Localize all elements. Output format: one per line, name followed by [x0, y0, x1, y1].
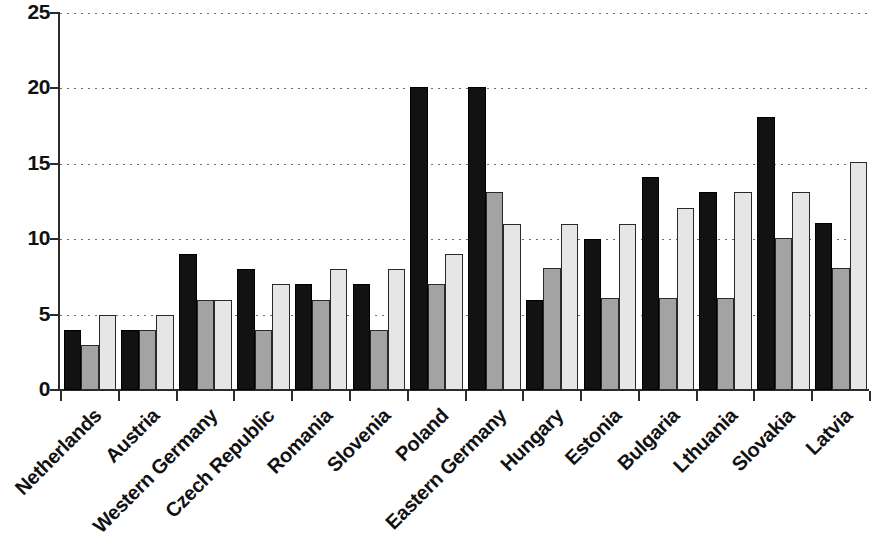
- bar: [775, 238, 793, 390]
- bar-group: [295, 13, 348, 390]
- bar-group: [179, 13, 232, 390]
- bar: [850, 162, 868, 390]
- x-tick-mark: [465, 391, 467, 401]
- x-tick-mark: [349, 391, 351, 401]
- bar: [81, 345, 99, 390]
- y-tick-label: 15: [6, 151, 50, 175]
- x-tick-mark: [233, 391, 235, 401]
- bar: [659, 298, 677, 390]
- bar-group: [757, 13, 810, 390]
- bar-group: [64, 13, 117, 390]
- bar: [486, 192, 504, 390]
- bar: [197, 300, 215, 390]
- bar: [757, 117, 775, 390]
- bar: [99, 315, 117, 390]
- x-tick-mark: [580, 391, 582, 401]
- bar: [584, 239, 602, 390]
- y-tick-mark: [50, 12, 60, 14]
- bar: [503, 224, 521, 390]
- x-tick-mark: [753, 391, 755, 401]
- bar: [642, 177, 660, 390]
- bar: [734, 192, 752, 390]
- bar-group: [121, 13, 174, 390]
- bar: [677, 208, 695, 390]
- y-tick-label: 20: [6, 75, 50, 99]
- bar: [156, 315, 174, 390]
- x-tick-mark: [869, 391, 871, 401]
- bar: [468, 87, 486, 390]
- bar-group: [526, 13, 579, 390]
- x-tick-mark: [60, 391, 62, 401]
- bar: [255, 330, 273, 390]
- bar: [312, 300, 330, 390]
- bar: [370, 330, 388, 390]
- y-tick-label: 25: [6, 0, 50, 24]
- bar: [295, 284, 313, 390]
- bar-chart: 0510152025 NetherlandsAustriaWestern Ger…: [0, 0, 879, 538]
- bar: [561, 224, 579, 390]
- x-tick-mark: [176, 391, 178, 401]
- bar: [139, 330, 157, 390]
- y-tick-mark: [50, 238, 60, 240]
- bar-group: [237, 13, 290, 390]
- bar: [272, 284, 290, 390]
- x-tick-mark: [811, 391, 813, 401]
- bar: [792, 192, 810, 390]
- y-tick-label: 5: [6, 302, 50, 326]
- bar-group: [468, 13, 521, 390]
- bar: [601, 298, 619, 390]
- bar-group: [699, 13, 752, 390]
- bar-group: [815, 13, 868, 390]
- bar: [543, 268, 561, 390]
- x-tick-mark: [696, 391, 698, 401]
- bar: [832, 268, 850, 390]
- bar: [64, 330, 82, 390]
- bar: [717, 298, 735, 390]
- bar: [214, 300, 232, 390]
- bar: [388, 269, 406, 390]
- bar: [815, 223, 833, 390]
- y-tick-mark: [50, 87, 60, 89]
- x-tick-mark: [118, 391, 120, 401]
- bar-group: [584, 13, 637, 390]
- x-tick-mark: [638, 391, 640, 401]
- bar-group: [410, 13, 463, 390]
- bar: [410, 87, 428, 390]
- x-tick-mark: [522, 391, 524, 401]
- bar: [428, 284, 446, 390]
- bar: [619, 224, 637, 390]
- y-tick-mark: [50, 163, 60, 165]
- x-tick-mark: [407, 391, 409, 401]
- y-tick-label: 0: [6, 377, 50, 401]
- bar-group: [353, 13, 406, 390]
- bar: [330, 269, 348, 390]
- x-tick-mark: [291, 391, 293, 401]
- bar-group: [642, 13, 695, 390]
- bar: [121, 330, 139, 390]
- bar: [526, 300, 544, 390]
- y-tick-mark: [50, 389, 60, 391]
- bar: [237, 269, 255, 390]
- y-tick-label: 10: [6, 226, 50, 250]
- bar: [699, 192, 717, 390]
- y-tick-mark: [50, 314, 60, 316]
- bar: [179, 254, 197, 390]
- bar: [445, 254, 463, 390]
- plot-area: [60, 13, 869, 390]
- bar: [353, 284, 371, 390]
